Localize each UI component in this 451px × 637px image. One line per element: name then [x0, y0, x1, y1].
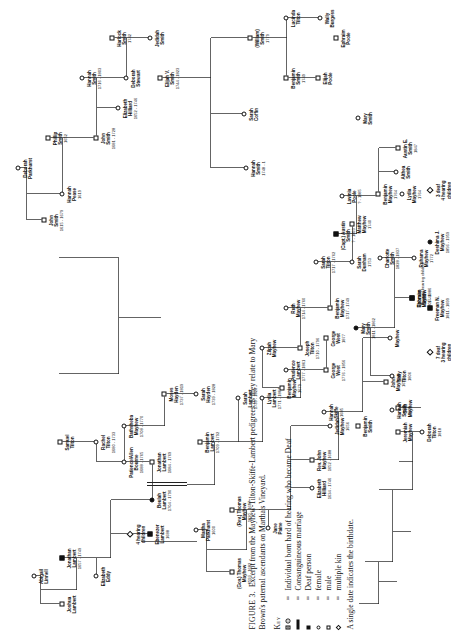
person-label: Deshima J. Mayhew [434, 219, 445, 265]
figure-caption: FIGURE 3. Excerpt from the Mayhew-Tilton… [247, 329, 268, 629]
person-dates: 1681 - 1728 [110, 115, 115, 161]
person-label: Deborah Tilton [426, 409, 437, 455]
person-dates: 1764 [416, 171, 421, 217]
person-dates: ? - 1885 [356, 173, 361, 219]
male-symbol [93, 135, 98, 140]
male-symbol [161, 391, 166, 396]
key-text: multiple kin [333, 329, 343, 590]
female-symbol [355, 115, 360, 120]
female-symbol [389, 373, 394, 378]
person-dates: 1709 - 1792 [214, 419, 219, 465]
female-symbol [193, 527, 198, 532]
key-text: female [313, 329, 323, 590]
key-equals: = [283, 594, 293, 601]
person-label: Benjamin Smith [290, 55, 301, 101]
person-dates: 1828 - 1837 [394, 235, 399, 281]
figure-number: FIGURE 3. [247, 590, 256, 629]
person-label: 7 deaf 3 hearing children [435, 329, 451, 375]
person-label: (Gov.) Thomas Mayhew [236, 550, 247, 596]
person-dates: 1748 - 1 [260, 145, 265, 191]
male-symbol [59, 601, 64, 606]
male-symbol [149, 459, 154, 464]
male-symbol [395, 145, 400, 150]
key-heading: Key [272, 329, 282, 629]
person-label: Elizabeth Eddy [100, 553, 111, 599]
female-symbol [283, 305, 288, 310]
person-label: Martha Parkhurst [200, 507, 211, 553]
key-text: male [323, 329, 333, 590]
key-item: = multiple kin [333, 329, 343, 629]
female-symbol [115, 105, 120, 110]
person-dates: 1740 [366, 201, 371, 247]
key-symbol-hoh-became-deaf [283, 605, 293, 629]
female-symbol [411, 255, 416, 260]
male-symbol [157, 75, 162, 80]
key-item: = Consanguineous marriage [293, 329, 303, 629]
key-item: = Deaf person [303, 329, 313, 629]
person-label: Deborah Parkhurst [22, 145, 33, 191]
key-item: = male [323, 329, 333, 629]
person-dates: 1684 - 1769 [166, 439, 171, 485]
person-dates: 1657 - 1749 [76, 535, 81, 581]
person-label: (Rev.) Thomas Mayhew [236, 488, 247, 534]
person-label: Elijah V. Smith [164, 55, 175, 101]
key-text: Deaf person [303, 329, 313, 590]
person-label: Mary Smith [360, 305, 371, 351]
key-symbol-consanguineous-bar [293, 605, 303, 629]
multiple-kin-symbol [426, 348, 432, 354]
person-label: Bathsheba Mayhew [128, 403, 139, 449]
female-symbol [393, 169, 398, 174]
female-symbol [349, 259, 354, 264]
person-label: Elijah Poole [322, 55, 333, 101]
person-dates: 1714 - 1760 [300, 285, 305, 331]
person-label: Moses Hayden [168, 371, 179, 417]
key-item: = female [313, 329, 323, 629]
person-label: 3 deaf 4 hearing children [435, 167, 451, 213]
person-dates: 1764 [392, 171, 397, 217]
figure-caption-text: Excerpt from the Mayhew-Tilton-Skiffe-La… [247, 338, 266, 629]
person-dates: 1737 - 1819 [178, 371, 183, 417]
multiple-kin-symbol [426, 186, 432, 192]
person-dates: 1811 - 1862 [370, 305, 375, 351]
person-label: Harlock Smith [116, 15, 127, 61]
person-dates: 1856 - 1959 [444, 219, 449, 265]
person-label: Benjamin Smith [362, 403, 373, 449]
male-symbol [383, 379, 388, 384]
male-deaf-symbol [333, 231, 338, 236]
key-text: Individual born hard of hearing who beca… [283, 329, 293, 590]
person-dates: 1652 [62, 115, 67, 161]
person-dates: 1600 [210, 507, 215, 553]
male-deaf-symbol [147, 531, 152, 536]
female-symbol [387, 335, 392, 340]
female-symbol [317, 15, 322, 20]
key-symbol-female [313, 605, 323, 629]
male-symbol [327, 305, 332, 310]
person-label: Sarah Coffin [248, 91, 259, 137]
person-label: Deborah Stewart [130, 55, 141, 101]
key-item: = Individual born hard of hearing who be… [283, 329, 293, 629]
male-symbol [229, 507, 234, 512]
person-dates: 1716 - 1803 [96, 55, 101, 101]
person-dates: 1717 - 1762 [330, 239, 335, 285]
person-label: (William) Smith [254, 15, 265, 61]
person-label: Ruth Mayhew [290, 285, 301, 331]
key-note: A single date indicates the birthdate. [345, 329, 355, 629]
person-dates: 1744 - 1823 [174, 55, 179, 101]
male-symbol [283, 75, 288, 80]
person-label: Hannah Smith [396, 387, 407, 433]
person-dates: 1708 - 1770 [138, 403, 143, 449]
person-label: Sarah Hayden [200, 371, 211, 417]
person-dates: 1811 - 1899 [444, 285, 449, 331]
figure-caption-block: FIGURE 3. Excerpt from the Mayhew-Tilton… [247, 329, 354, 629]
person-label: Samuel Tilton [64, 419, 75, 465]
key-equals: = [293, 594, 303, 601]
person-label: Sarah Tilton [320, 239, 331, 285]
person-dates: 1749 [300, 55, 305, 101]
male-symbol [375, 191, 380, 196]
female-symbol [193, 391, 198, 396]
key-symbol-deaf-person [303, 605, 313, 629]
person-label: John Smith [100, 115, 111, 161]
person-label: 4 hearing children [135, 511, 146, 557]
person-dates: 1803 [406, 387, 411, 433]
person-dates: 1779 [264, 15, 269, 61]
